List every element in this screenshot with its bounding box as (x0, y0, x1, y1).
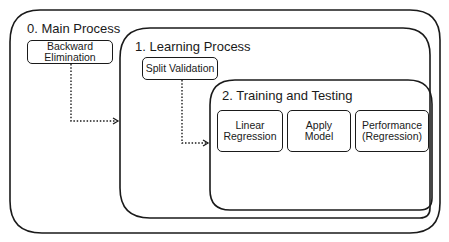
training-testing-title: 2. Training and Testing (222, 88, 353, 103)
connector-split-to-training (182, 80, 208, 146)
operator-label: Elimination (44, 52, 95, 63)
operator-label: (Regression) (362, 131, 422, 142)
main-process-title: 0. Main Process (27, 21, 120, 36)
split-validation-operator[interactable]: Split Validation (142, 57, 218, 80)
operator-label: Model (305, 131, 334, 142)
backward-elimination-operator[interactable]: Backward Elimination (27, 40, 113, 64)
learning-process-title: 1. Learning Process (135, 39, 251, 54)
operator-label: Split Validation (146, 63, 215, 74)
apply-model-operator[interactable]: Apply Model (287, 110, 351, 152)
performance-regression-operator[interactable]: Performance (Regression) (355, 110, 429, 152)
operator-label: Regression (223, 131, 276, 142)
connector-backward-to-learning (71, 64, 118, 124)
linear-regression-operator[interactable]: Linear Regression (217, 110, 283, 152)
